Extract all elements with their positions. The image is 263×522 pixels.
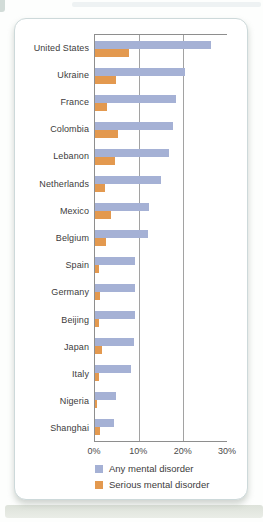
serious-mental-disorder-bar bbox=[95, 157, 115, 165]
serious-mental-disorder-bar bbox=[95, 265, 99, 273]
category-label: United States bbox=[15, 34, 94, 61]
bar-group bbox=[95, 414, 227, 441]
any-mental-disorder-bar bbox=[95, 257, 135, 265]
category-label: Netherlands bbox=[15, 170, 94, 197]
any-mental-disorder-bar bbox=[95, 95, 176, 103]
page-bottom-shadow bbox=[5, 505, 263, 518]
bar-group bbox=[95, 197, 227, 224]
any-mental-disorder-bar bbox=[95, 41, 211, 49]
serious-mental-disorder-bar bbox=[95, 76, 116, 84]
any-mental-disorder-bar bbox=[95, 68, 185, 76]
category-label: Lebanon bbox=[15, 143, 94, 170]
x-axis: 0%10%20%30% bbox=[94, 446, 227, 458]
page-scan-tint bbox=[72, 2, 261, 7]
legend-item-serious: Serious mental disorder bbox=[95, 479, 209, 490]
bar-group bbox=[95, 143, 227, 170]
serious-mental-disorder-bar bbox=[95, 130, 118, 138]
any-mental-disorder-bar bbox=[95, 284, 135, 292]
category-label: Shanghai bbox=[15, 415, 94, 442]
category-label: France bbox=[15, 88, 94, 115]
bar-group bbox=[95, 224, 227, 251]
x-tick-label: 20% bbox=[174, 446, 192, 456]
chart-card: United StatesUkraineFranceColombiaLebano… bbox=[14, 18, 248, 500]
category-label: Nigeria bbox=[15, 388, 94, 415]
serious-mental-disorder-bar bbox=[95, 49, 129, 57]
bar-group bbox=[95, 170, 227, 197]
scanned-page: United StatesUkraineFranceColombiaLebano… bbox=[0, 0, 263, 522]
any-mental-disorder-bar bbox=[95, 176, 161, 184]
category-labels: United StatesUkraineFranceColombiaLebano… bbox=[15, 34, 94, 442]
any-mental-disorder-bar bbox=[95, 392, 116, 400]
any-mental-disorder-bar bbox=[95, 338, 134, 346]
category-label: Germany bbox=[15, 279, 94, 306]
serious-mental-disorder-bar bbox=[95, 238, 106, 246]
serious-mental-disorder-bar bbox=[95, 292, 100, 300]
bar-group bbox=[95, 62, 227, 89]
bar-group bbox=[95, 89, 227, 116]
category-label: Beijing bbox=[15, 306, 94, 333]
serious-mental-disorder-bar bbox=[95, 346, 102, 354]
any-mental-disorder-bar bbox=[95, 419, 114, 427]
any-mental-disorder-bar bbox=[95, 122, 173, 130]
legend-label: Any mental disorder bbox=[109, 463, 193, 474]
bar-group bbox=[95, 306, 227, 333]
category-label: Spain bbox=[15, 252, 94, 279]
serious-mental-disorder-bar bbox=[95, 373, 99, 381]
bar-group bbox=[95, 279, 227, 306]
serious-mental-disorder-bar bbox=[95, 319, 99, 327]
any-mental-disorder-swatch bbox=[95, 465, 103, 473]
bar-group bbox=[95, 35, 227, 62]
category-label: Belgium bbox=[15, 224, 94, 251]
any-mental-disorder-bar bbox=[95, 203, 149, 211]
serious-mental-disorder-bar bbox=[95, 103, 107, 111]
bar-chart: United StatesUkraineFranceColombiaLebano… bbox=[15, 34, 227, 442]
serious-mental-disorder-swatch bbox=[95, 481, 103, 489]
any-mental-disorder-bar bbox=[95, 311, 135, 319]
x-tick-label: 10% bbox=[129, 446, 147, 456]
serious-mental-disorder-bar bbox=[95, 184, 105, 192]
category-label: Italy bbox=[15, 360, 94, 387]
serious-mental-disorder-bar bbox=[95, 211, 111, 219]
bar-group bbox=[95, 252, 227, 279]
bar-group bbox=[95, 360, 227, 387]
legend: Any mental disorder Serious mental disor… bbox=[95, 463, 209, 495]
any-mental-disorder-bar bbox=[95, 230, 148, 238]
bar-group bbox=[95, 116, 227, 143]
category-label: Colombia bbox=[15, 116, 94, 143]
legend-label: Serious mental disorder bbox=[109, 479, 209, 490]
any-mental-disorder-bar bbox=[95, 365, 131, 373]
x-tick-label: 30% bbox=[218, 446, 236, 456]
category-label: Ukraine bbox=[15, 61, 94, 88]
plot-area bbox=[94, 34, 227, 442]
serious-mental-disorder-bar bbox=[95, 400, 97, 408]
bar-group bbox=[95, 387, 227, 414]
page-corner-artifact bbox=[0, 0, 5, 12]
serious-mental-disorder-bar bbox=[95, 427, 100, 435]
any-mental-disorder-bar bbox=[95, 149, 169, 157]
bar-group bbox=[95, 333, 227, 360]
legend-item-any: Any mental disorder bbox=[95, 463, 209, 474]
bar-rows bbox=[95, 35, 227, 441]
x-tick-label: 0% bbox=[87, 446, 100, 456]
category-label: Mexico bbox=[15, 197, 94, 224]
category-label: Japan bbox=[15, 333, 94, 360]
